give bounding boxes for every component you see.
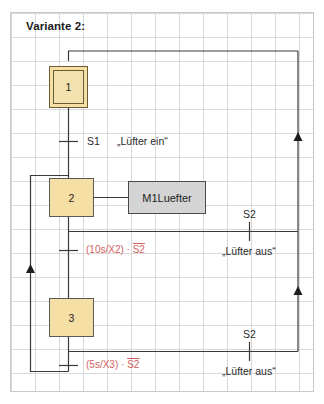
sfc-diagram-canvas: Variante 2:	[0, 0, 324, 404]
line-top-feed	[69, 51, 299, 61]
sfc-step-1[interactable]: 1	[49, 66, 88, 108]
transition-5-comment: „Lüfter aus“	[222, 365, 276, 377]
sfc-step-2-label: 2	[69, 192, 75, 204]
sfc-step-1-label: 1	[66, 81, 72, 93]
transition-1-comment: „Lüfter ein“	[117, 135, 168, 147]
arrowhead-left-rail-icon	[26, 264, 35, 273]
arrowhead-right-rail-lower-icon	[294, 286, 303, 295]
transition-2-condition: (10s/X2) · S2	[86, 244, 145, 255]
transition-3-comment: „Lüfter aus“	[222, 245, 276, 257]
arrowhead-right-rail-upper-icon	[294, 132, 303, 141]
sfc-step-3[interactable]: 3	[49, 298, 94, 337]
sfc-step-3-label: 3	[69, 312, 75, 324]
transition-3-condition: S2	[243, 208, 256, 220]
action-box-m1luefter[interactable]: M1Luefter	[128, 181, 206, 214]
transition-5-condition: S2	[243, 328, 256, 340]
sfc-step-1-inner: 1	[53, 70, 84, 104]
transition-1-condition: S1	[87, 135, 100, 147]
sfc-step-2[interactable]: 2	[49, 178, 94, 217]
transition-2-condition-negated: S2	[133, 244, 145, 255]
transition-2-condition-prefix: (10s/X2) ·	[86, 244, 133, 255]
transition-4-condition: (5s/X3) · S2	[86, 359, 139, 370]
action-box-label: M1Luefter	[142, 192, 192, 204]
transition-4-condition-prefix: (5s/X3) ·	[86, 359, 127, 370]
transition-4-condition-negated: S2	[127, 359, 139, 370]
